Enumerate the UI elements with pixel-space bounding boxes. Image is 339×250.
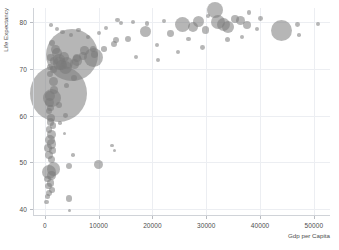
data-point-bubble xyxy=(50,86,58,94)
data-point-bubble xyxy=(145,21,150,26)
data-point-bubble xyxy=(140,26,151,37)
data-point-bubble xyxy=(176,50,180,54)
data-point-bubble xyxy=(110,144,114,148)
gridline-horizontal xyxy=(33,162,330,163)
y-tick-mark xyxy=(30,116,33,117)
data-point-bubble xyxy=(156,58,160,62)
data-point-bubble xyxy=(49,187,55,193)
data-point-bubble xyxy=(271,20,292,41)
x-tick-mark xyxy=(314,216,315,219)
data-point-bubble xyxy=(47,54,53,60)
data-point-bubble xyxy=(111,41,117,47)
gridline-vertical xyxy=(260,8,261,216)
y-axis-title: Life Expectancy xyxy=(2,8,9,52)
data-point-bubble xyxy=(200,45,205,50)
data-point-bubble xyxy=(73,54,81,62)
y-tick-label: 80 xyxy=(9,19,27,26)
data-point-bubble xyxy=(50,122,56,128)
data-point-bubble xyxy=(63,132,66,135)
x-tick-mark xyxy=(45,216,46,219)
data-point-bubble xyxy=(188,22,198,32)
data-point-bubble xyxy=(167,30,174,37)
x-tick-label: 40000 xyxy=(251,222,270,229)
data-point-bubble xyxy=(240,35,244,39)
data-point-bubble xyxy=(113,149,116,152)
x-tick-label: 30000 xyxy=(197,222,216,229)
data-point-bubble xyxy=(49,23,53,27)
data-point-bubble xyxy=(316,22,320,26)
data-point-bubble xyxy=(49,40,55,46)
data-point-bubble xyxy=(247,10,251,14)
x-tick-mark xyxy=(260,216,261,219)
y-tick-label: 50 xyxy=(9,159,27,166)
data-point-bubble xyxy=(119,21,123,25)
data-point-bubble xyxy=(231,15,239,23)
x-tick-mark xyxy=(99,216,100,219)
data-point-bubble xyxy=(155,43,159,47)
data-point-bubble xyxy=(222,21,234,33)
data-point-bubble xyxy=(46,108,52,114)
data-point-bubble xyxy=(131,20,135,24)
data-point-bubble xyxy=(47,71,53,77)
x-axis-line xyxy=(33,215,330,216)
data-point-bubble xyxy=(243,21,251,29)
y-tick-mark xyxy=(30,162,33,163)
gridline-horizontal xyxy=(33,209,330,210)
data-point-bubble xyxy=(48,156,55,163)
data-point-bubble xyxy=(49,77,58,86)
y-axis-line xyxy=(33,8,34,216)
data-point-bubble xyxy=(94,160,103,169)
x-tick-mark xyxy=(152,216,153,219)
data-point-bubble xyxy=(71,153,75,157)
y-tick-label: 60 xyxy=(9,112,27,119)
data-point-bubble xyxy=(66,195,73,202)
data-point-bubble xyxy=(295,22,300,27)
data-point-bubble xyxy=(125,36,131,42)
gridline-vertical xyxy=(99,8,100,216)
x-tick-label: 50000 xyxy=(305,222,324,229)
x-tick-label: 10000 xyxy=(89,222,108,229)
data-point-bubble xyxy=(134,55,138,59)
data-point-bubble xyxy=(97,31,101,35)
data-point-bubble xyxy=(58,121,62,125)
y-tick-label: 70 xyxy=(9,65,27,72)
data-point-bubble xyxy=(55,27,59,31)
data-point-bubble xyxy=(202,26,209,33)
data-point-bubble xyxy=(206,14,210,18)
gridline-vertical xyxy=(206,8,207,216)
data-point-bubble xyxy=(66,163,72,169)
data-point-bubble xyxy=(186,37,190,41)
data-point-bubble xyxy=(297,33,301,37)
data-point-bubble xyxy=(51,45,60,54)
x-axis-title: Gdp per Capita xyxy=(288,232,330,239)
data-point-bubble xyxy=(225,37,230,42)
y-tick-mark xyxy=(30,22,33,23)
x-tick-mark xyxy=(206,216,207,219)
data-point-bubble xyxy=(104,26,108,30)
data-point-bubble xyxy=(258,16,263,21)
y-tick-mark xyxy=(30,69,33,70)
x-tick-label: 20000 xyxy=(143,222,162,229)
y-tick-label: 40 xyxy=(9,205,27,212)
gridline-vertical xyxy=(152,8,153,216)
data-point-bubble xyxy=(44,200,49,205)
gridline-vertical xyxy=(314,8,315,216)
data-point-bubble xyxy=(49,147,55,153)
plot-area xyxy=(33,8,330,216)
y-tick-mark xyxy=(30,209,33,210)
data-point-bubble xyxy=(45,194,50,199)
data-point-bubble xyxy=(101,46,107,52)
gridline-horizontal xyxy=(33,116,330,117)
data-point-bubble xyxy=(68,209,71,212)
x-tick-label: 0 xyxy=(43,222,47,229)
data-point-bubble xyxy=(255,27,259,31)
bubble-chart: 01000020000300004000050000 4050607080 Gd… xyxy=(0,0,339,250)
